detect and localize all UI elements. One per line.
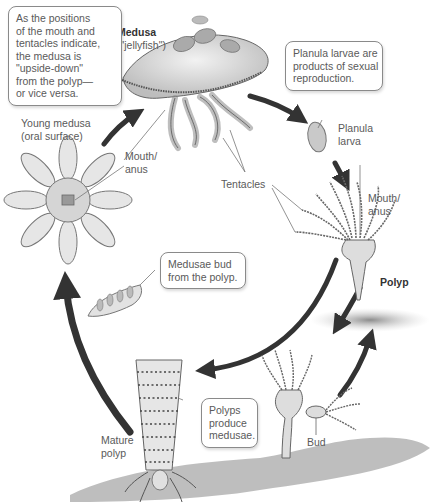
medusa-sublabel: ("jellyfish") [117,39,166,52]
planula-larva-label: Planula larva [338,122,373,147]
polyp-label: Polyp [380,276,409,289]
callout-upside-down: As the positions of the mouth and tentac… [8,6,122,106]
arrow-young-to-medusa [104,114,136,144]
callout-medusae-bud: Medusae bud from the polyp. [160,252,246,289]
young-medusa-label: Young medusa (oral surface) [21,117,91,142]
callout-polyps-produce-medusae: Polyps produce medusae. [201,398,258,448]
bud-label: Bud [307,436,326,449]
medusa-mouth-anus-label: Mouth/ anus [125,150,157,175]
detached-ephyra-illustration [88,285,142,316]
medusa-label: Medusa [117,26,156,39]
arrow-bud-to-polyp [340,338,370,395]
tentacles-label: Tentacles [221,178,265,191]
polyp-mouth-anus-label: Mouth/ anus [368,192,400,217]
planula-larva-illustration [306,121,329,154]
young-medusa-illustration [4,136,132,264]
mature-polyp-label: Mature polyp [101,434,134,459]
callout-planula-sexual-reproduction: Planula larvae are products of sexual re… [285,41,383,91]
arrow-medusa-to-planula [250,96,300,118]
cnidarian-life-cycle-diagram: Medusa ("jellyfish") Planula larva Polyp… [0,0,439,502]
